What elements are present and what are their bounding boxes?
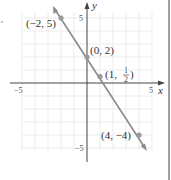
label-4-neg4: (4, −4) bbox=[101, 129, 131, 142]
x-tick-max: 5 bbox=[149, 86, 153, 95]
point-1-half bbox=[97, 74, 102, 79]
y-axis-label: y bbox=[91, 0, 97, 11]
line-arrow-bottom-icon bbox=[141, 144, 148, 152]
label-1-half-close: ) bbox=[130, 68, 134, 81]
label-1-half: (1, bbox=[105, 68, 117, 81]
point-neg2-5 bbox=[58, 15, 63, 20]
x-tick-min: −5 bbox=[14, 86, 23, 95]
y-tick-max: 5 bbox=[79, 14, 83, 23]
label-0-2: (0, 2) bbox=[90, 44, 114, 57]
label-1-half-den: 2 bbox=[124, 75, 128, 84]
coordinate-plane: −5 5 5 −5 x y (−2, 5) (0, 2) (1, 1 2 ) (… bbox=[0, 0, 171, 180]
point-4-neg4 bbox=[136, 132, 141, 137]
label-1-half-num: 1 bbox=[124, 66, 128, 75]
point-0-2 bbox=[84, 54, 89, 59]
margin-dot bbox=[1, 21, 3, 23]
label-neg2-5: (−2, 5) bbox=[26, 17, 56, 30]
x-axis-label: x bbox=[157, 84, 163, 96]
y-axis-arrow-icon bbox=[85, 2, 90, 9]
y-tick-min: −5 bbox=[75, 144, 84, 153]
